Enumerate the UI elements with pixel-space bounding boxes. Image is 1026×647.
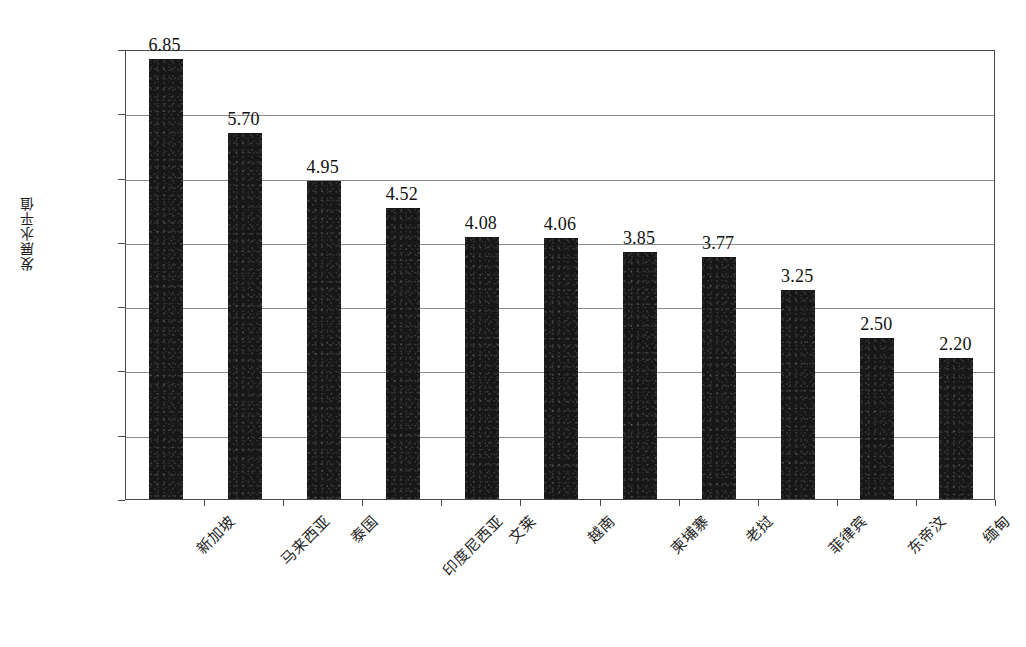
x-category-label: 印度尼西亚 [441,514,506,579]
y-tick-mark [118,179,125,180]
x-category-label: 新加坡 [194,514,237,557]
x-category-label: 泰国 [348,514,381,547]
x-category-label: 菲律宾 [827,514,870,557]
bar-value-label: 3.77 [683,234,753,252]
bar [860,338,894,499]
x-category-label: 越南 [585,514,618,547]
bar-value-label: 3.25 [762,267,832,285]
x-tick-mark [520,500,521,506]
bar [307,181,341,499]
bar-value-label: 4.06 [525,215,595,233]
bar [465,237,499,499]
x-tick-mark [916,500,917,506]
x-category-label: 柬埔寨 [669,514,712,557]
bar-value-label: 5.70 [209,110,279,128]
bar [702,257,736,499]
bar [544,238,578,499]
bar [386,208,420,499]
bar [623,252,657,500]
y-tick-mark [118,500,125,501]
bar-value-label: 2.50 [841,315,911,333]
y-axis-title: 发展水平值 [18,196,40,271]
bar-value-label: 2.20 [920,335,990,353]
bar-chart: 发展水平值 7.006.005.004.003.002.001.000 6.85… [0,0,1026,647]
x-tick-mark [995,500,996,506]
x-tick-mark [679,500,680,506]
x-tick-mark [837,500,838,506]
y-tick-mark [118,243,125,244]
bar-value-label: 4.52 [367,185,437,203]
bar-value-label: 3.85 [604,229,674,247]
x-tick-mark [283,500,284,506]
x-category-label: 老挝 [743,514,776,547]
bar-value-label: 4.95 [288,158,358,176]
y-tick-mark [118,436,125,437]
x-tick-mark [600,500,601,506]
y-tick-mark [118,371,125,372]
x-category-label: 东帝汶 [906,514,949,557]
x-tick-mark [758,500,759,506]
y-tick-mark [118,307,125,308]
bar [939,358,973,499]
x-category-label: 缅甸 [981,514,1014,547]
x-tick-mark [204,500,205,506]
bar-value-label: 4.08 [446,214,516,232]
x-tick-mark [362,500,363,506]
bar [149,59,183,499]
y-tick-mark [118,114,125,115]
x-tick-mark [441,500,442,506]
x-category-label: 马来西亚 [278,514,332,568]
bar [781,290,815,499]
x-category-label: 文莱 [506,514,539,547]
y-tick-mark [118,50,125,51]
bar-value-label: 6.85 [130,36,200,54]
bar [228,133,262,499]
